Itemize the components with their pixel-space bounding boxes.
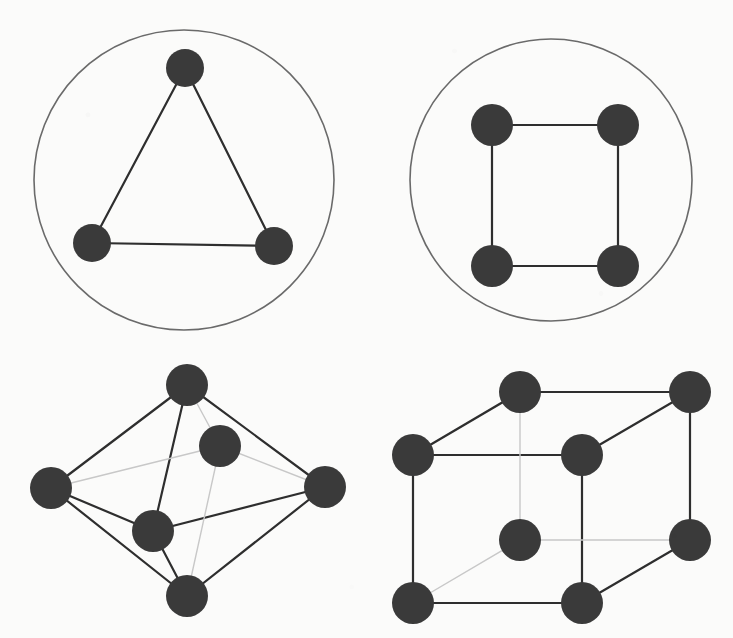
vertex-node-t1[interactable] (73, 224, 111, 262)
edge-o2-o4 (153, 487, 325, 531)
vertex-node-s1[interactable] (597, 104, 639, 146)
vertex-node-s2[interactable] (597, 245, 639, 287)
vertex-node-o2[interactable] (132, 510, 174, 552)
figure-triangle-in-circle (34, 30, 334, 330)
vertex-node-t0[interactable] (166, 49, 204, 87)
vertex-node-o5[interactable] (166, 575, 208, 617)
figure-octahedron (30, 364, 346, 617)
edge-t0-t2 (185, 68, 274, 246)
edge-t0-t1 (92, 68, 185, 243)
vertex-node-s0[interactable] (471, 104, 513, 146)
figures-canvas (0, 0, 733, 638)
vertex-node-s3[interactable] (471, 245, 513, 287)
hidden-edge-o1-o3 (51, 446, 220, 488)
vertex-node-c5[interactable] (669, 371, 711, 413)
vertex-node-c7[interactable] (499, 519, 541, 561)
vertex-node-o4[interactable] (304, 466, 346, 508)
vertex-node-c0[interactable] (392, 434, 434, 476)
vertex-node-c1[interactable] (561, 434, 603, 476)
vertex-node-c6[interactable] (669, 519, 711, 561)
edge-t1-t2 (92, 243, 274, 246)
vertex-node-o0[interactable] (166, 364, 208, 406)
vertex-node-t2[interactable] (255, 227, 293, 265)
figure-square-in-circle (410, 39, 692, 321)
vertex-node-c2[interactable] (561, 582, 603, 624)
vertex-node-c4[interactable] (499, 371, 541, 413)
figure-cube (392, 371, 711, 624)
vertex-node-o1[interactable] (30, 467, 72, 509)
vertex-node-o3[interactable] (199, 425, 241, 467)
figure-page (0, 0, 733, 638)
vertex-node-c3[interactable] (392, 582, 434, 624)
circumscribed-circle (410, 39, 692, 321)
